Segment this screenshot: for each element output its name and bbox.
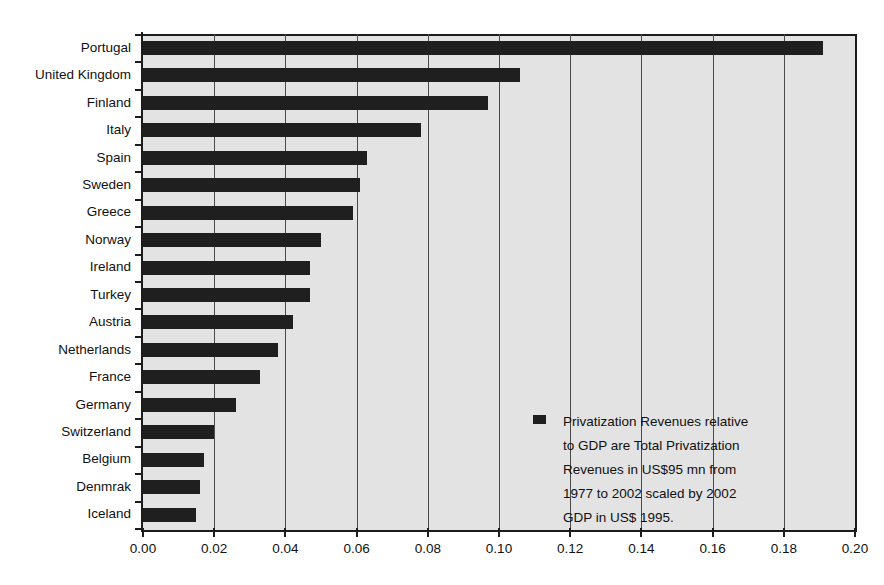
bar (143, 398, 236, 412)
x-axis-tick-label: 0.08 (398, 542, 458, 556)
x-axis-tick-label: 0.04 (255, 542, 315, 556)
y-axis-label: Belgium (0, 452, 131, 466)
x-axis-tick (356, 528, 358, 537)
y-axis-label: Ireland (0, 260, 131, 274)
y-axis-tick (135, 391, 143, 393)
x-axis-tick-label: 0.20 (825, 542, 884, 556)
x-axis-tick (854, 528, 856, 537)
y-axis-tick (135, 473, 143, 475)
y-axis-label: Finland (0, 96, 131, 110)
bar-row (0, 34, 884, 61)
y-axis-label: Netherlands (0, 343, 131, 357)
y-axis-label: Italy (0, 123, 131, 137)
y-axis-tick (135, 336, 143, 338)
legend-text-line: Privatization Revenues relative (563, 410, 833, 434)
bar (143, 41, 823, 55)
bar-row (0, 116, 884, 143)
y-axis-tick (135, 418, 143, 420)
y-axis-label: France (0, 370, 131, 384)
legend-text: Privatization Revenues relativeto GDP ar… (563, 410, 833, 530)
x-axis-tick (498, 528, 500, 537)
legend-text-line: Revenues in US$95 mn from (563, 458, 833, 482)
x-axis-tick-label: 0.06 (327, 542, 387, 556)
x-axis-tick-label: 0.14 (611, 542, 671, 556)
y-axis-tick (135, 89, 143, 91)
y-axis-tick (135, 501, 143, 503)
y-axis-tick (135, 61, 143, 63)
y-axis-label: Iceland (0, 507, 131, 521)
bar (143, 343, 278, 357)
bar-row (0, 336, 884, 363)
bar-chart: PortugalUnited KingdomFinlandItalySpainS… (0, 0, 884, 585)
bar-row (0, 254, 884, 281)
legend-text-line: 1977 to 2002 scaled by 2002 (563, 482, 833, 506)
bar (143, 480, 200, 494)
y-axis-label: Greece (0, 205, 131, 219)
bar (143, 68, 520, 82)
x-axis-tick (427, 528, 429, 537)
x-axis-tick (284, 528, 286, 537)
x-axis-tick (142, 528, 144, 537)
y-axis-label: Turkey (0, 288, 131, 302)
bar (143, 96, 488, 110)
legend-text-line: to GDP are Total Privatization (563, 434, 833, 458)
y-axis-tick (135, 254, 143, 256)
bar (143, 123, 421, 137)
bar (143, 453, 204, 467)
y-axis-tick (135, 116, 143, 118)
bar-row (0, 89, 884, 116)
bar (143, 261, 310, 275)
bar-row (0, 308, 884, 335)
x-axis-tick-label: 0.12 (540, 542, 600, 556)
bar-row (0, 226, 884, 253)
bar-row (0, 363, 884, 390)
y-axis-label: Norway (0, 233, 131, 247)
y-axis-label: Sweden (0, 178, 131, 192)
x-axis-tick-label: 0.10 (469, 542, 529, 556)
bar (143, 508, 196, 522)
y-axis-label: Switzerland (0, 425, 131, 439)
x-axis-tick-label: 0.16 (683, 542, 743, 556)
y-axis-label: United Kingdom (0, 68, 131, 82)
bar (143, 315, 293, 329)
y-axis-label: Germany (0, 398, 131, 412)
x-axis-tick (213, 528, 215, 537)
bar-row (0, 61, 884, 88)
bar (143, 151, 367, 165)
bar (143, 206, 353, 220)
x-axis-tick-label: 0.00 (113, 542, 173, 556)
y-axis-label: Denmrak (0, 480, 131, 494)
bar (143, 288, 310, 302)
y-axis-tick (135, 226, 143, 228)
bar-row (0, 199, 884, 226)
y-axis-label: Spain (0, 151, 131, 165)
legend-swatch-icon (533, 415, 546, 424)
y-axis-tick (135, 308, 143, 310)
y-axis-tick (135, 171, 143, 173)
bar (143, 178, 360, 192)
bar (143, 425, 214, 439)
y-axis-tick (135, 363, 143, 365)
y-axis-tick (135, 281, 143, 283)
y-axis-label: Portugal (0, 41, 131, 55)
y-axis-tick (135, 144, 143, 146)
bar (143, 233, 321, 247)
y-axis-tick (135, 199, 143, 201)
bar (143, 370, 260, 384)
x-axis-tick-label: 0.18 (754, 542, 814, 556)
bar-row (0, 171, 884, 198)
bar-row (0, 281, 884, 308)
x-axis-tick-label: 0.02 (184, 542, 244, 556)
bar-row (0, 144, 884, 171)
y-axis-tick (135, 446, 143, 448)
y-axis-tick (135, 34, 143, 36)
y-axis-label: Austria (0, 315, 131, 329)
legend-text-line: GDP in US$ 1995. (563, 506, 833, 530)
